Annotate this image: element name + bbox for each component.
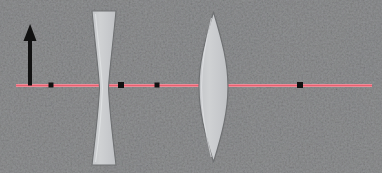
object-arrow-shaft bbox=[28, 40, 32, 86]
point-concave-right-focus bbox=[118, 82, 124, 88]
optics-diagram bbox=[0, 0, 382, 173]
point-intermediate-image bbox=[155, 83, 160, 88]
point-object-focus bbox=[49, 83, 54, 88]
diagram-canvas bbox=[0, 0, 382, 173]
point-final-image bbox=[297, 82, 303, 88]
